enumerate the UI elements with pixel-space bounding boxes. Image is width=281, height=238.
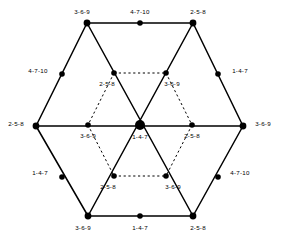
outer-top-right-vertex [190, 20, 197, 27]
inner-left-node-label: 3-6-9 [80, 133, 96, 139]
outer-top-midpoint-label: 4-7-10 [130, 9, 149, 15]
inner-bottom-left-node-label: 2-5-8 [100, 184, 116, 190]
lattice-figure: 3-6-94-7-102-5-84-7-101-4-72-5-83-6-92-5… [0, 0, 281, 238]
outer-bottom-right-vertex [190, 213, 197, 220]
outer-bottom-left-vertex-label: 3-6-9 [75, 225, 91, 231]
inner-bottom-left-node [111, 173, 117, 179]
inner-right-node-label: 2-5-8 [184, 133, 200, 139]
outer-top-left-vertex [84, 20, 91, 27]
outer-top-midpoint [137, 20, 143, 26]
outer-bottom-midpoint-label: 1-4-7 [132, 225, 148, 231]
outer-lower-left-edge [59, 174, 65, 180]
outer-top-right-vertex-label: 2-5-8 [190, 9, 206, 15]
solid-edge-group [36, 23, 243, 216]
inner-top-right-node-label: 3-6-9 [164, 81, 180, 87]
center-node [135, 120, 145, 130]
outer-lower-right-edge [215, 174, 221, 180]
inner-bottom-right-node [163, 173, 169, 179]
outer-left-vertex-label: 2-5-8 [8, 121, 24, 127]
outer-left-vertex [33, 123, 40, 130]
outer-upper-left-edge-label: 4-7-10 [28, 68, 47, 74]
outer-upper-right-edge-label: 1-4-7 [232, 68, 248, 74]
center-node-label: 1-4-7 [132, 134, 148, 140]
outer-lower-left-edge-label: 1-4-7 [32, 170, 48, 176]
inner-right-node [189, 122, 195, 128]
outer-bottom-right-vertex-label: 2-5-8 [190, 225, 206, 231]
outer-right-vertex-label: 3-6-9 [255, 121, 271, 127]
inner-top-right-node [163, 70, 169, 76]
inner-top-left-node-label: 2-5-8 [99, 81, 115, 87]
inner-top-left-node [111, 70, 117, 76]
outer-upper-left-edge [59, 71, 65, 77]
inner-bottom-right-node-label: 3-6-9 [165, 184, 181, 190]
outer-right-vertex [240, 123, 247, 130]
outer-bottom-left-vertex [85, 213, 92, 220]
outer-bottom-midpoint [137, 213, 143, 219]
outer-lower-right-edge-label: 4-7-10 [230, 170, 249, 176]
inner-left-node [85, 122, 91, 128]
outer-top-left-vertex-label: 3-6-9 [74, 9, 90, 15]
lattice-graphic [0, 0, 281, 238]
outer-upper-right-edge [215, 71, 221, 77]
